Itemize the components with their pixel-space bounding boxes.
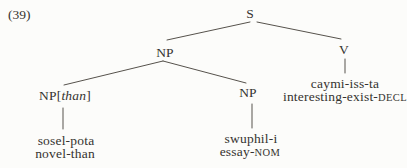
np-than-feature: than bbox=[61, 88, 86, 103]
edge-np-npobject bbox=[163, 61, 246, 83]
caymi-gloss-decl-tag: DECL bbox=[378, 92, 407, 103]
swuphil-gloss-nom-tag: NOM bbox=[255, 147, 281, 158]
np-than-close: ] bbox=[86, 88, 91, 103]
terminal-sosel-gloss: novel-than bbox=[35, 147, 95, 161]
caymi-gloss-base: interesting-exist- bbox=[283, 89, 378, 104]
swuphil-gloss-base: essay- bbox=[220, 144, 255, 159]
node-np-subject: NP bbox=[156, 46, 174, 60]
edge-s-v bbox=[257, 22, 341, 39]
edge-np-npthan bbox=[64, 61, 163, 85]
edge-s-np bbox=[167, 22, 250, 40]
node-np-than: NP[than] bbox=[39, 89, 91, 103]
node-s: S bbox=[246, 7, 254, 21]
np-than-open: NP[ bbox=[39, 88, 61, 103]
scanned-paper-figure: (39) S NP V NP[than] NP caymi-iss-ta int… bbox=[0, 0, 407, 168]
node-v: V bbox=[339, 43, 349, 57]
node-np-object: NP bbox=[239, 86, 257, 100]
terminal-swuphil-gloss: essay-NOM bbox=[220, 145, 281, 159]
terminal-caymi-gloss: interesting-exist-DECL bbox=[283, 90, 407, 104]
